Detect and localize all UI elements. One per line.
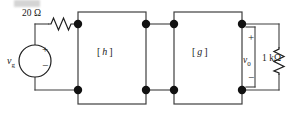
source-voltage-subscript: g <box>11 61 15 69</box>
output-minus-sign: − <box>248 72 254 83</box>
load-resistor-label: 1 kΩ <box>262 54 281 64</box>
series-resistor-label: 20 Ω <box>22 9 41 19</box>
circuit-diagram: 20 Ω vg + − [h] [g] v0 + − 1 kΩ <box>0 0 298 113</box>
source-plus-sign: + <box>42 44 48 55</box>
circuit-schematic-svg <box>0 0 298 113</box>
scan-artifact <box>14 0 40 7</box>
source-minus-sign: − <box>42 60 48 71</box>
node-g-port2-bottom <box>238 86 246 94</box>
source-voltage-label: vg <box>7 56 15 69</box>
two-port-h-label: [h] <box>97 47 113 57</box>
bracket-close-g: ] <box>204 46 207 57</box>
node-h-port1-bottom <box>74 86 82 94</box>
two-port-box-g <box>174 12 242 104</box>
two-port-box-h <box>78 12 146 104</box>
symbol-h: h <box>100 46 109 57</box>
node-h-port1-top <box>74 20 82 28</box>
symbol-g: g <box>195 46 204 57</box>
series-resistor-symbol <box>48 18 75 30</box>
output-voltage-subscript: 0 <box>247 60 251 68</box>
node-h-port2-bottom <box>142 86 150 94</box>
node-h-port2-top <box>142 20 150 28</box>
terminal-nodes <box>74 20 246 94</box>
output-plus-sign: + <box>248 32 254 43</box>
node-g-port1-top <box>170 20 178 28</box>
bracket-close-h: ] <box>109 46 112 57</box>
two-port-g-label: [g] <box>192 47 208 57</box>
node-g-port2-top <box>238 20 246 28</box>
node-g-port1-bottom <box>170 86 178 94</box>
output-voltage-label: v0 <box>243 56 251 68</box>
